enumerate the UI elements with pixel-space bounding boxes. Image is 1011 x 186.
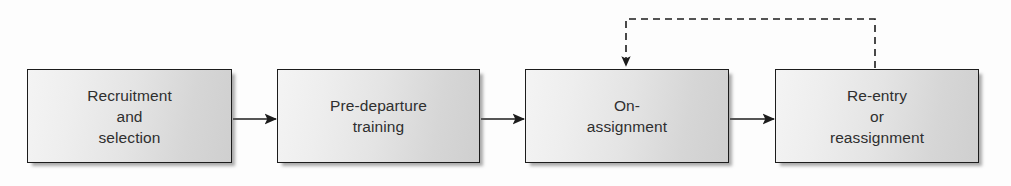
stage-label-re-entry-or-reassignment: Re-entry or reassignment — [824, 85, 930, 148]
stage-label-pre-departure-training: Pre-departure training — [324, 95, 433, 137]
stage-box-recruitment-and-selection[interactable]: Recruitment and selection — [27, 69, 232, 163]
stage-label-on-assignment: On- assignment — [581, 95, 673, 137]
process-flow-diagram: Recruitment and selection Pre-departure … — [0, 0, 1011, 186]
stage-label-recruitment-and-selection: Recruitment and selection — [81, 85, 178, 148]
stage-box-pre-departure-training[interactable]: Pre-departure training — [277, 69, 480, 163]
connector-reentry-feedback-to-assignment — [626, 19, 875, 68]
stage-box-on-assignment[interactable]: On- assignment — [525, 69, 729, 163]
stage-box-re-entry-or-reassignment[interactable]: Re-entry or reassignment — [775, 69, 979, 163]
